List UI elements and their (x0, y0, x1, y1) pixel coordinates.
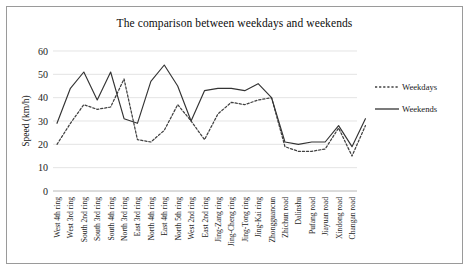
gridlines (53, 51, 357, 191)
x-axis-category-label: Jing-Kai ring (254, 197, 263, 237)
x-axis-category-label: North 4th ring (147, 197, 156, 241)
y-tick-label: 50 (38, 69, 48, 80)
data-series (57, 65, 365, 156)
x-axis-categories: West 4th ringWest 3rd ringSouth 2nd ring… (53, 197, 357, 246)
legend-label-weekdays: Weekdays (402, 82, 438, 92)
y-tick-label: 10 (38, 162, 48, 173)
chart-legend: WeekdaysWeekends (375, 82, 438, 114)
x-axis-category-label: West 2nd ring (187, 197, 196, 240)
x-axis-category-label: South 2nd ring (80, 197, 89, 242)
y-tick-label: 40 (38, 92, 48, 103)
y-tick-label: 20 (38, 139, 48, 150)
line-chart: 0102030405060 Speed (km/h) West 4th ring… (7, 7, 462, 263)
x-axis-category-label: North 5th ring (174, 197, 183, 241)
y-tick-label: 30 (38, 116, 48, 127)
y-tick-label: 60 (38, 46, 48, 57)
x-axis-category-label: Xindong road (335, 197, 344, 239)
x-axis-category-label: East 3rd ring (133, 197, 142, 236)
y-axis-label: Speed (km/h) (21, 95, 32, 146)
y-tick-label: 0 (43, 186, 48, 197)
x-axis-category-label: East 2nd ring (201, 197, 210, 238)
x-axis-category-label: Zhongguancun (268, 197, 277, 243)
x-axis-category-label: East 4th ring (160, 197, 169, 236)
y-axis-title: Speed (km/h) (21, 95, 32, 146)
x-axis-category-label: South 4th ring (107, 197, 116, 241)
chart-container: The comparison between weekdays and week… (6, 6, 463, 264)
series-line-weekends (57, 65, 365, 147)
x-axis-category-label: Jing-Cheng ring (227, 197, 236, 246)
x-axis-category-label: West 4th ring (53, 197, 62, 238)
x-axis-category-label: Zhichun road (281, 197, 290, 238)
x-axis-category-label: Dalinshu (294, 197, 303, 225)
x-axis-category-label: Pufang road (308, 197, 317, 234)
x-axis-category-label: Jing-Zang ring (214, 197, 223, 242)
y-axis-ticks: 0102030405060 (38, 46, 48, 197)
x-axis-category-label: Jiayuan road (321, 197, 330, 236)
x-axis-category-label: Jing-Tong ring (241, 197, 250, 242)
x-axis-category-label: South 3rd ring (93, 197, 102, 241)
x-axis-category-label: West 3rd ring (66, 197, 75, 238)
legend-label-weekends: Weekends (402, 104, 438, 114)
x-axis-category-label: Changan road (348, 197, 357, 240)
x-axis-category-label: North 3rd ring (120, 197, 129, 241)
